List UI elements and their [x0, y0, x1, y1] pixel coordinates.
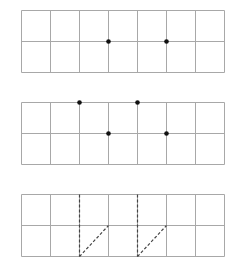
grid-point-dot — [135, 100, 140, 105]
grid-point-dot — [164, 39, 169, 44]
dashed-segment — [80, 226, 109, 257]
panel-1 — [22, 11, 225, 73]
panel-2 — [22, 100, 225, 164]
panel-3 — [22, 195, 225, 257]
grid-point-dot — [164, 131, 169, 136]
dashed-segment — [138, 226, 167, 257]
grid-diagram — [0, 0, 233, 264]
grid-point-dot — [77, 100, 82, 105]
grid-point-dot — [106, 131, 111, 136]
grid-point-dot — [106, 39, 111, 44]
